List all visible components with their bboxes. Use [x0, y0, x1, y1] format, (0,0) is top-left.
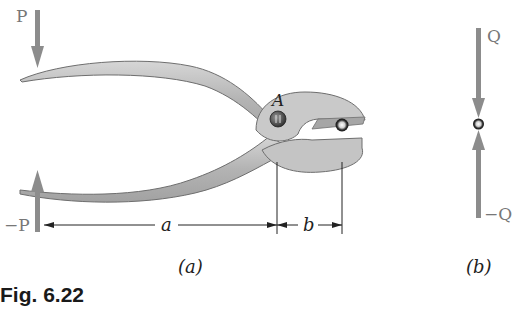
pin-label-a: A: [270, 90, 284, 110]
figure-caption: Fig. 6.22: [0, 283, 84, 307]
gripped-rod: [336, 119, 349, 132]
force-neg-p-label: −P: [4, 215, 30, 235]
panel-b-label: (b): [466, 256, 492, 277]
pivot-pin-a: [270, 111, 286, 127]
panel-a: A P −P a b: [4, 6, 365, 277]
force-q-label: Q: [487, 26, 501, 46]
dimension-a-label: a: [161, 214, 172, 235]
panel-b: Q −Q (b): [466, 26, 512, 277]
pliers-figure: A P −P a b: [0, 0, 513, 310]
force-p-arrow: [31, 10, 44, 68]
force-neg-q-label: −Q: [484, 204, 512, 224]
rod-section: [473, 119, 484, 130]
lower-handle: [20, 136, 288, 202]
force-neg-p-arrow: [31, 170, 44, 232]
force-p-label: P: [16, 6, 27, 26]
upper-handle: [20, 61, 285, 140]
panel-a-label: (a): [178, 256, 203, 277]
dimension-b-label: b: [303, 214, 315, 235]
force-q-arrow: [472, 28, 485, 118]
